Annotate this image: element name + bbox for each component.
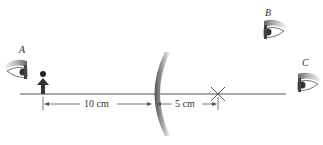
eye-b-label: B bbox=[265, 7, 271, 18]
optics-diagram: 10 cm 5 cm A B C bbox=[0, 0, 323, 145]
eye-a-icon bbox=[5, 60, 27, 79]
object-arrow-icon bbox=[37, 71, 49, 94]
eye-c-label: C bbox=[302, 57, 309, 68]
eye-c-icon bbox=[298, 73, 320, 92]
eye-b-icon bbox=[264, 20, 286, 39]
dimension-5cm-label: 5 cm bbox=[175, 98, 195, 109]
eye-a-label: A bbox=[18, 44, 26, 55]
dimension-10cm-label: 10 cm bbox=[84, 98, 109, 109]
